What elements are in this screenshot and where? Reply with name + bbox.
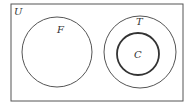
universe-label: U (14, 6, 23, 17)
set-t-label: T (136, 16, 144, 27)
set-c-label: C (134, 49, 142, 60)
venn-diagram: U F T C (0, 0, 196, 104)
set-f-label: F (56, 24, 65, 35)
universe-rectangle (11, 4, 183, 101)
